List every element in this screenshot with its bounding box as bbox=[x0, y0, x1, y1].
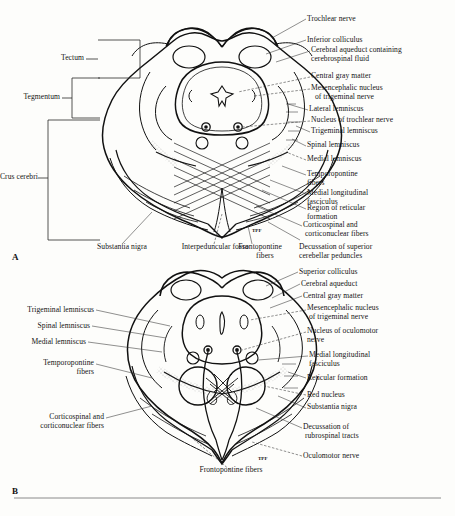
label-substantia-nigra-b: Substantia nigra bbox=[307, 403, 357, 412]
label-corticospinal-corticonuclear-fibers: Corticospinal and corticonuclear fibers bbox=[303, 221, 369, 238]
panel-letter-b: B bbox=[12, 486, 18, 496]
label-oculomotor-nerve: Oculomotor nerve bbox=[303, 452, 359, 461]
label-trochlear-nerve: Trochlear nerve bbox=[307, 15, 356, 24]
label-central-gray-matter: Central gray matter bbox=[311, 72, 371, 81]
inline-mark-tpf-a: TPF bbox=[252, 228, 261, 233]
label-superior-colliculus: Superior colliculus bbox=[299, 268, 358, 277]
bracket-label-tectum: Tectum bbox=[6, 54, 84, 63]
label-frontopontine-fibers: Frontopontine fibers bbox=[226, 243, 294, 260]
label-medial-lemniscus: Medial lemniscus bbox=[307, 155, 362, 164]
bracket-label-crus-cerebri: Crus cerebri bbox=[0, 173, 36, 182]
label-red-nucleus: Red nucleus bbox=[307, 391, 345, 400]
label-nucleus-oculomotor-nerve: Nucleus of oculomotor nerve bbox=[307, 327, 378, 344]
label-cerebral-aqueduct-b: Cerebral aqueduct bbox=[301, 280, 357, 289]
label-nucleus-trochlear-nerve: Nucleus of trochlear nerve bbox=[311, 116, 393, 125]
label-frontopontine-fibers-b: Frontopontine fibers bbox=[150, 466, 312, 475]
panel-a-drawing: TPF bbox=[102, 28, 341, 238]
label-spinal-lemniscus: Spinal lemniscus bbox=[307, 141, 359, 150]
label-reticular-formation-b: Reticular formation bbox=[307, 374, 368, 383]
label-mesencephalic-nucleus-trigeminal-b: Mesencephalic nucleus of trigeminal nerv… bbox=[307, 304, 379, 321]
label-region-reticular-formation: Region of reticular formation bbox=[307, 204, 365, 221]
brackets-panel-a bbox=[38, 40, 140, 240]
label-temporopontine-fibers-b: Temporopontine fibers bbox=[2, 359, 94, 376]
label-decussation-superior-cerebellar-peduncles: Decussation of superior cerebellar pedun… bbox=[299, 243, 372, 260]
label-medial-lemniscus-b: Medial lemniscus bbox=[2, 338, 86, 347]
label-trigeminal-lemniscus: Trigeminal lemniscus bbox=[311, 127, 378, 136]
label-mesencephalic-nucleus-trigeminal: Mesencephalic nucleus of trigeminal nerv… bbox=[311, 84, 383, 101]
label-cerebral-aqueduct: Cerebral aqueduct containing cerebrospin… bbox=[311, 46, 402, 63]
panel-b-drawing: TPF bbox=[126, 271, 318, 464]
label-spinal-lemniscus-b: Spinal lemniscus bbox=[2, 322, 90, 331]
label-decussation-rubrospinal-tracts: Decussation of rubrospinal tracts bbox=[303, 423, 359, 440]
figure-root: TPF bbox=[0, 0, 455, 516]
inline-mark-tpf-b: TPF bbox=[258, 456, 267, 461]
label-temporopontine-fibers: Temporopontine fibers bbox=[307, 170, 358, 187]
label-corticospinal-corticonuclear-fibers-b: Corticospinal and corticonuclear fibers bbox=[2, 413, 104, 430]
label-substantia-nigra: Substantia nigra bbox=[80, 243, 164, 252]
bracket-label-tegmentum: Tegmentum bbox=[0, 93, 60, 102]
label-lateral-lemniscus: Lateral lemniscus bbox=[309, 105, 364, 114]
label-trigeminal-lemniscus-b: Trigeminal lemniscus bbox=[2, 306, 94, 315]
label-inferior-colliculus: Inferior colliculus bbox=[307, 36, 363, 45]
panel-letter-a: A bbox=[12, 252, 19, 262]
label-medial-longitudinal-fasciculus-b: Medial longitudinal fasciculus bbox=[309, 351, 370, 368]
label-central-gray-matter-b: Central gray matter bbox=[303, 292, 363, 301]
